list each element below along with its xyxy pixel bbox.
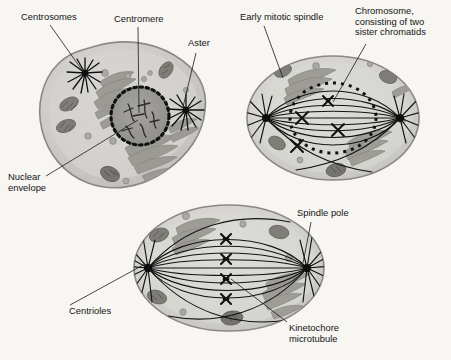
leader-centrioles	[70, 264, 145, 305]
figure-canvas	[0, 0, 451, 360]
label-aster: Aster	[188, 38, 210, 49]
label-centrosomes: Centrosomes	[21, 12, 77, 23]
label-kinetochore-line2: microtubule	[289, 334, 339, 345]
label-chromosome-line1: Chromosome,	[355, 6, 426, 17]
spindle-pole-left	[144, 264, 152, 272]
cell2-spindle-pole-left	[262, 114, 270, 122]
spindle-pole-right	[303, 264, 311, 272]
label-chromosome: Chromosome, consisting of two sister chr…	[355, 6, 426, 38]
nucleus	[111, 87, 169, 145]
leader-early-mitotic-spindle	[264, 26, 283, 78]
mitosis-figure: Centrosomes Centromere Aster Nuclear env…	[0, 0, 451, 360]
label-centromere: Centromere	[114, 14, 164, 25]
prophase-cell	[40, 42, 206, 188]
label-spindle-pole: Spindle pole	[297, 208, 349, 219]
label-nuclear-envelope: Nuclear envelope	[8, 172, 46, 193]
label-centrioles: Centrioles	[69, 306, 111, 317]
label-early-mitotic-spindle: Early mitotic spindle	[240, 12, 323, 23]
label-nuclear-envelope-line2: envelope	[8, 183, 46, 194]
label-chromosome-line3: sister chromatids	[355, 27, 426, 38]
label-kinetochore-microtubule: Kinetochore microtubule	[289, 323, 339, 344]
label-nuclear-envelope-line1: Nuclear	[8, 172, 46, 183]
label-kinetochore-line1: Kinetochore	[289, 323, 339, 334]
metaphase-cell	[122, 205, 333, 331]
prometaphase-cell	[245, 56, 421, 180]
cell2-spindle-pole-right	[396, 114, 404, 122]
